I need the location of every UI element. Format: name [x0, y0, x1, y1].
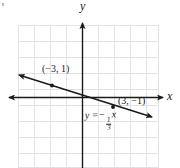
point-label-a: (−3, 1) [42, 64, 69, 74]
point-label-b: (3, −1) [118, 96, 145, 106]
y-axis-label: y [80, 0, 85, 12]
equation-variable: x [112, 108, 117, 119]
graph-figure: y x (−3, 1) (3, −1) y =−13x [0, 0, 180, 168]
point-marker-a [50, 84, 54, 88]
fraction-denominator: 3 [106, 124, 112, 131]
equation-label: y =−13x [85, 109, 117, 132]
coordinate-plane [0, 0, 180, 168]
x-axis-label: x [167, 90, 172, 102]
equation-minus-sign: − [98, 109, 105, 120]
equation-left-side: y = [85, 109, 99, 120]
